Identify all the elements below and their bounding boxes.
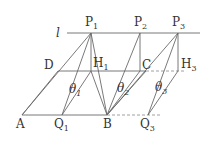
label-D: D (44, 58, 54, 72)
segment-P3B (107, 33, 178, 115)
label-H1: H1 (93, 56, 109, 72)
segment-P1Q1 (62, 33, 91, 115)
segment-P2B (107, 33, 140, 115)
segment-BH1 (91, 71, 107, 115)
label-P1: P1 (85, 15, 98, 31)
segment-P3Q3 (148, 33, 178, 115)
label-theta3: θ3 (155, 80, 167, 96)
label-B: B (103, 117, 112, 131)
label-theta2: θ2 (117, 81, 129, 97)
segment-P1B (91, 33, 107, 115)
label-A: A (15, 117, 25, 131)
label-C: C (142, 58, 151, 72)
label-l: l (56, 26, 60, 40)
label-P3: P3 (172, 15, 185, 31)
segment-P1A (22, 33, 91, 115)
label-Q3: Q3 (140, 117, 155, 133)
label-Q1: Q1 (54, 117, 69, 133)
geometry-diagram: l P1 P2 P3 D H1 C H3 A Q1 B Q3 θ1 θ2 θ3 (0, 0, 213, 143)
label-H3: H3 (181, 57, 197, 73)
label-P2: P2 (134, 15, 147, 31)
label-theta1: θ1 (69, 82, 81, 98)
